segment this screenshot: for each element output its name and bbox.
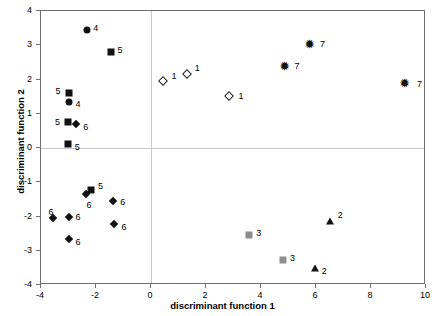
data-point-label: 1 xyxy=(171,72,176,81)
data-point-label: 7 xyxy=(417,80,422,89)
data-point-series-1[interactable] xyxy=(182,69,192,79)
data-point-series-6[interactable] xyxy=(72,119,80,127)
x-tick xyxy=(260,284,261,288)
data-point-series-5[interactable] xyxy=(64,140,71,147)
data-point-series-5[interactable] xyxy=(108,49,115,56)
y-tick xyxy=(36,44,40,45)
x-tick-label: 8 xyxy=(358,290,382,300)
zero-line-vertical xyxy=(151,11,152,283)
x-tick xyxy=(205,284,206,288)
data-point-series-6[interactable] xyxy=(64,212,72,220)
data-point-series-7[interactable]: ✹ xyxy=(280,62,289,71)
scatter-chart: 111223344555556666666✹7✹7✹7 -4-20246810 … xyxy=(0,0,445,316)
x-tick-label: -4 xyxy=(28,290,52,300)
data-point-label: 6 xyxy=(87,201,92,210)
x-tick-label: -2 xyxy=(83,290,107,300)
data-point-series-4[interactable] xyxy=(84,27,91,34)
data-point-series-2[interactable] xyxy=(326,217,334,224)
data-point-label: 4 xyxy=(93,24,98,33)
x-tick-label: 0 xyxy=(138,290,162,300)
y-tick xyxy=(36,147,40,148)
y-tick xyxy=(36,284,40,285)
data-point-label: 1 xyxy=(195,64,200,73)
data-point-label: 5 xyxy=(56,87,61,96)
y-tick-label: -4 xyxy=(12,279,32,289)
x-tick-label: 4 xyxy=(248,290,272,300)
data-point-series-5[interactable] xyxy=(64,119,71,126)
data-point-label: 7 xyxy=(294,62,299,71)
data-point-series-4[interactable] xyxy=(65,99,72,106)
x-tick-label: 10 xyxy=(413,290,437,300)
data-point-series-3[interactable] xyxy=(280,256,287,263)
y-tick xyxy=(36,216,40,217)
data-point-label: 6 xyxy=(83,123,88,132)
y-tick xyxy=(36,79,40,80)
data-point-series-1[interactable] xyxy=(158,76,168,86)
y-tick-label: 3 xyxy=(12,39,32,49)
y-tick-label: 4 xyxy=(12,5,32,15)
data-point-series-1[interactable] xyxy=(224,91,234,101)
y-tick xyxy=(36,250,40,251)
data-point-series-6[interactable] xyxy=(64,235,72,243)
data-point-label: 5 xyxy=(117,46,122,55)
data-point-label: 7 xyxy=(320,40,325,49)
x-tick xyxy=(315,284,316,288)
data-point-series-5[interactable] xyxy=(65,89,72,96)
x-tick xyxy=(40,284,41,288)
data-point-label: 1 xyxy=(239,92,244,101)
y-tick xyxy=(36,181,40,182)
data-point-label: 2 xyxy=(322,267,327,276)
data-point-label: 5 xyxy=(75,143,80,152)
data-point-label: 3 xyxy=(256,229,261,238)
y-axis-title: discriminant function 2 xyxy=(15,62,26,222)
data-point-label: 4 xyxy=(76,100,81,109)
x-axis-title: discriminant function 1 xyxy=(0,300,445,311)
data-point-label: 6 xyxy=(76,213,81,222)
data-point-series-6[interactable] xyxy=(110,220,118,228)
data-point-series-3[interactable] xyxy=(246,231,253,238)
y-tick xyxy=(36,10,40,11)
x-tick-label: 2 xyxy=(193,290,217,300)
x-tick xyxy=(370,284,371,288)
x-tick xyxy=(425,284,426,288)
data-point-series-2[interactable] xyxy=(311,264,319,271)
data-point-series-6[interactable] xyxy=(109,197,117,205)
x-tick xyxy=(150,284,151,288)
data-point-label: 3 xyxy=(290,254,295,263)
y-tick-label: -3 xyxy=(12,245,32,255)
data-point-series-7[interactable]: ✹ xyxy=(400,79,409,88)
data-point-series-7[interactable]: ✹ xyxy=(305,40,314,49)
data-point-label: 6 xyxy=(76,238,81,247)
plot-area: 111223344555556666666✹7✹7✹7 xyxy=(40,10,425,284)
y-tick xyxy=(36,113,40,114)
x-tick xyxy=(95,284,96,288)
data-point-label: 6 xyxy=(120,198,125,207)
zero-line-horizontal xyxy=(41,148,424,149)
x-tick-label: 6 xyxy=(303,290,327,300)
data-point-label: 5 xyxy=(98,182,103,191)
data-point-label: 2 xyxy=(338,211,343,220)
data-point-label: 5 xyxy=(55,118,60,127)
data-point-label: 6 xyxy=(49,208,54,217)
data-point-label: 6 xyxy=(121,223,126,232)
